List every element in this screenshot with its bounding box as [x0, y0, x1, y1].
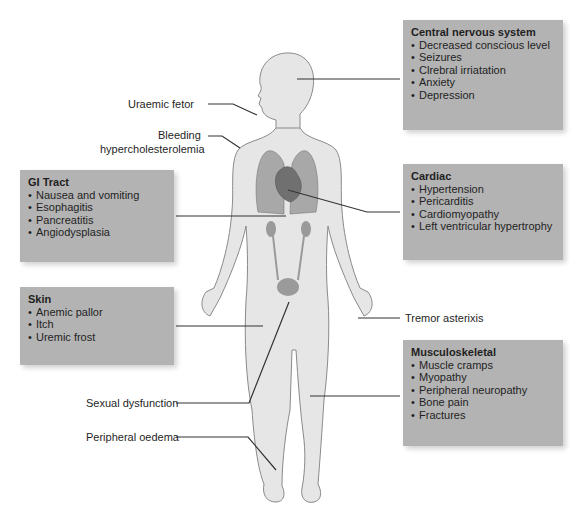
skin-list: Anemic pallor Itch Uremic frost: [28, 306, 166, 344]
cns-box: Central nervous system Decreased conscio…: [403, 20, 563, 130]
cardiac-title: Cardiac: [411, 170, 555, 183]
musculoskeletal-box: Musculoskeletal Muscle cramps Myopathy P…: [403, 340, 563, 446]
cns-item: Seizures: [411, 51, 555, 64]
cardiac-item: Hypertension: [411, 183, 555, 196]
left-kidney: [266, 221, 276, 237]
head: [258, 53, 314, 130]
hypercholesterolemia-label: hypercholesterolemia: [100, 143, 205, 156]
bleeding-label: Bleeding: [158, 129, 201, 142]
skin-item: Uremic frost: [28, 331, 166, 344]
cardiac-box: Cardiac Hypertension Pericarditis Cardio…: [403, 164, 563, 260]
tremor-asterixis-label: Tremor asterixis: [405, 312, 483, 325]
skin-item: Anemic pallor: [28, 306, 166, 319]
cns-item: Anxiety: [411, 76, 555, 89]
msk-item: Myopathy: [411, 371, 555, 384]
cardiac-list: Hypertension Pericarditis Cardiomyopathy…: [411, 183, 555, 233]
gi-item: Esophagitis: [28, 201, 166, 214]
bladder: [277, 278, 299, 296]
gi-list: Nausea and vomiting Esophagitis Pancreat…: [28, 189, 166, 239]
cardiac-item: Cardiomyopathy: [411, 208, 555, 221]
cardiac-item: Left ventricular hypertrophy: [411, 220, 555, 233]
uraemic-fetor-label: Uraemic fetor: [128, 98, 194, 111]
cns-list: Decreased conscious level Seizures Clreb…: [411, 39, 555, 102]
msk-title: Musculoskeletal: [411, 346, 555, 359]
cns-title: Central nervous system: [411, 26, 555, 39]
cns-item: Clrebral irriatation: [411, 64, 555, 77]
skin-box: Skin Anemic pallor Itch Uremic frost: [20, 287, 174, 365]
msk-item: Muscle cramps: [411, 359, 555, 372]
msk-item: Bone pain: [411, 396, 555, 409]
msk-list: Muscle cramps Myopathy Peripheral neurop…: [411, 359, 555, 422]
gi-item: Nausea and vomiting: [28, 189, 166, 202]
skin-item: Itch: [28, 318, 166, 331]
gi-tract-box: GI Tract Nausea and vomiting Esophagitis…: [20, 170, 174, 262]
cns-item: Decreased conscious level: [411, 39, 555, 52]
gi-title: GI Tract: [28, 176, 166, 189]
right-kidney: [301, 221, 311, 237]
leader-uraemic-fetor: [208, 104, 257, 115]
peripheral-oedema-label: Peripheral oedema: [86, 431, 179, 444]
leader-bleeding: [208, 136, 240, 148]
msk-item: Fractures: [411, 409, 555, 422]
cns-item: Depression: [411, 89, 555, 102]
cardiac-item: Pericarditis: [411, 195, 555, 208]
sexual-dysfunction-label: Sexual dysfunction: [86, 397, 178, 410]
msk-item: Peripheral neuropathy: [411, 384, 555, 397]
skin-title: Skin: [28, 293, 166, 306]
gi-item: Pancreatitis: [28, 214, 166, 227]
gi-item: Angiodysplasia: [28, 226, 166, 239]
